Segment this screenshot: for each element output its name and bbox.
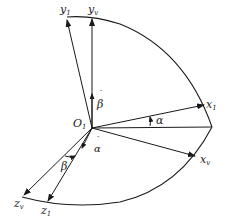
beta-angle-arc [65,156,75,157]
axis-xv [92,128,195,156]
label-alpha: α [156,114,164,127]
label-beta-dot: β [96,98,103,111]
label-origin: O1 [73,117,87,131]
top-arc [67,17,212,127]
label-xv: xv [200,153,210,167]
alpha-dot-vector [82,128,92,148]
axis-y1 [67,20,92,128]
label-alpha-dot-mark: ˙ [95,135,100,145]
label-beta: β [60,160,67,173]
label-z1: z1 [40,204,51,218]
label-beta-dot-mark: ˙ [98,89,103,99]
label-zv: zv [13,197,24,211]
label-yv: yv [87,3,98,17]
alpha-angle-arc [150,117,151,126]
axis-x1 [92,105,204,128]
label-y1: y1 [59,3,71,17]
label-x1: x1 [206,98,217,112]
reference-line [92,127,212,128]
rotation-diagram: y1 yv x1 xv zv z1 O1 α β β ˙ α ˙ [0,0,226,221]
bottom-arc [22,127,212,205]
